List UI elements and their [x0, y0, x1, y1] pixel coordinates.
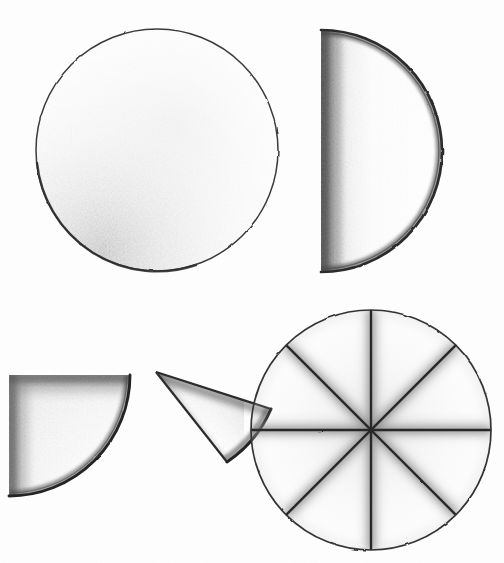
- paper-grain-overlay: [0, 0, 504, 563]
- pencil-drawing-svg: [0, 0, 504, 563]
- drawing-canvas: Hand-drawn pencil illustration of fracti…: [0, 0, 504, 563]
